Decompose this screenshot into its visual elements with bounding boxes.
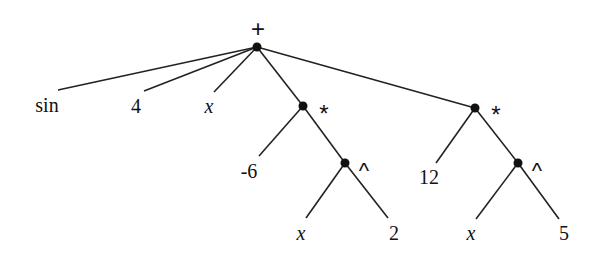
edge-root-mul-left xyxy=(257,47,303,106)
leaf-x1-label: x xyxy=(204,95,214,117)
edge-mul-left-neg6 xyxy=(259,106,303,156)
leaf-x2-label: x xyxy=(296,222,306,244)
edge-root-4 xyxy=(144,47,257,91)
node-mul-left-dot xyxy=(299,102,308,111)
edge-root-x xyxy=(214,47,257,92)
leaf-4-label: 4 xyxy=(131,95,141,117)
pow-left-op-label: ^ xyxy=(359,158,370,183)
mul-left-op-label: * xyxy=(319,100,328,127)
leaf-5-label: 5 xyxy=(559,222,569,244)
node-root-dot xyxy=(253,43,262,52)
pow-right-op-label: ^ xyxy=(532,158,543,183)
edge-root-mul-right xyxy=(257,47,475,108)
edge-pow-right-x xyxy=(476,163,518,219)
leaf-x3-label: x xyxy=(466,222,476,244)
leaf-12-label: 12 xyxy=(419,166,439,188)
leaf-2-label: 2 xyxy=(389,222,399,244)
node-pow-left-dot xyxy=(341,159,350,168)
mul-right-op-label: * xyxy=(491,101,500,128)
leaf-sin-label: sin xyxy=(35,94,58,116)
node-pow-right-dot xyxy=(514,159,523,168)
edge-root-sin xyxy=(58,47,257,90)
node-mul-right-dot xyxy=(471,104,480,113)
leaf-neg6-label: -6 xyxy=(241,160,258,182)
edge-mul-right-12 xyxy=(436,108,475,163)
edge-pow-left-x xyxy=(306,163,345,218)
root-op-label: + xyxy=(251,15,265,42)
expression-tree-diagram: + * ^ * ^ sin 4 x -6 x 2 12 x 5 xyxy=(0,0,594,254)
